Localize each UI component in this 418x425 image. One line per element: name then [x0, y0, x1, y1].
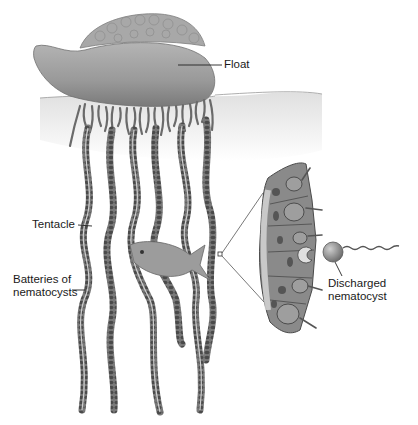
discharged-label-line1: Discharged	[328, 277, 386, 290]
batteries-label-line1: Batteries of	[13, 273, 71, 286]
discharged-nematocyst	[323, 242, 399, 262]
float-label: Float	[224, 58, 250, 71]
fish	[130, 242, 210, 280]
man-of-war-diagram: Float Tentacle Batteries of nematocysts …	[0, 0, 418, 425]
tentacle-label: Tentacle	[32, 218, 75, 231]
zoom-line-top	[222, 193, 263, 253]
zoom-line-bottom	[222, 256, 264, 302]
nematocyst-cross-section	[259, 163, 322, 333]
discharged-label-line2: nematocyst	[328, 290, 387, 303]
batteries-label-line2: nematocysts	[13, 286, 78, 299]
magnify-marker	[218, 252, 222, 256]
diagram-illustration	[0, 0, 418, 425]
